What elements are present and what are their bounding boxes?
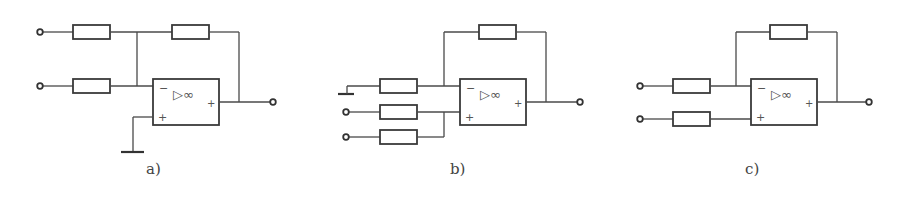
resistor-a-feedback	[172, 25, 209, 39]
resistor-b-feedback	[479, 25, 516, 39]
resistor-b-input2	[380, 130, 417, 144]
terminal-c-in1	[637, 83, 643, 89]
svg-text:+: +	[207, 98, 215, 109]
svg-text:+: +	[805, 98, 813, 109]
resistor-a-input2	[73, 79, 110, 93]
terminal-a-out	[270, 99, 276, 105]
terminal-a-in2	[37, 83, 43, 89]
terminal-b-in2	[343, 134, 349, 140]
resistor-c-input1	[673, 79, 710, 93]
svg-text:−: −	[159, 82, 168, 95]
svg-text:▷∞: ▷∞	[480, 87, 501, 102]
circuit-c: − + + ▷∞	[637, 25, 872, 126]
label-b: b)	[450, 160, 465, 178]
circuit-figure: − + + ▷∞ −	[0, 0, 898, 200]
resistor-b-input1	[380, 105, 417, 119]
svg-text:−: −	[466, 82, 475, 95]
svg-text:+: +	[465, 111, 474, 124]
resistor-c-input2	[673, 112, 710, 126]
resistor-c-feedback	[770, 25, 807, 39]
terminal-c-in2	[637, 116, 643, 122]
label-a: a)	[146, 160, 161, 178]
terminal-b-out	[577, 99, 583, 105]
svg-text:+: +	[756, 111, 765, 124]
resistor-a-input1	[73, 25, 110, 39]
terminal-c-out	[866, 99, 872, 105]
terminal-b-in1	[343, 109, 349, 115]
label-c: c)	[745, 160, 759, 178]
svg-text:▷∞: ▷∞	[173, 87, 194, 102]
svg-text:+: +	[158, 111, 167, 124]
terminal-a-in1	[37, 29, 43, 35]
circuit-a: − + + ▷∞	[37, 25, 276, 152]
circuit-b: − + + ▷∞	[338, 25, 583, 144]
svg-text:▷∞: ▷∞	[771, 87, 792, 102]
svg-text:+: +	[514, 98, 522, 109]
svg-text:−: −	[757, 82, 766, 95]
resistor-b-ground	[380, 79, 417, 93]
